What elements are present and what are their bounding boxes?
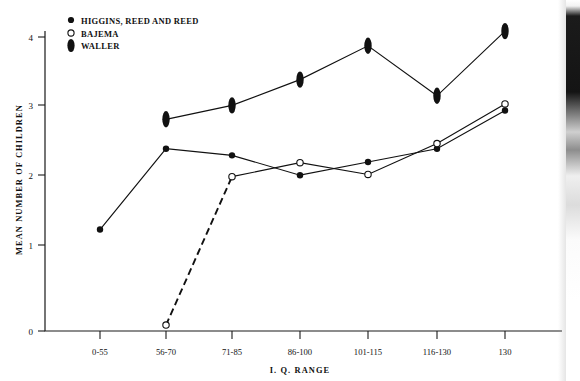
x-axis-ticks [100, 331, 505, 339]
data-point-higgins-reed-and-reed-130 [502, 107, 508, 113]
series-segment-solid [166, 31, 505, 119]
y-tick-label-0: 0 [29, 327, 34, 337]
data-point-bajema-101-115 [365, 171, 371, 177]
chart-axes: 4 3 2 1 0 MEAN NUMBER OF CHILDREN 0-55 5… [15, 31, 562, 375]
data-point-higgins-reed-and-reed-71-85 [229, 152, 235, 158]
y-axis-title: MEAN NUMBER OF CHILDREN [15, 104, 24, 255]
series-waller [162, 23, 508, 128]
data-point-higgins-reed-and-reed-101-115 [365, 159, 371, 165]
y-tick-label-4: 4 [29, 33, 34, 43]
data-point-waller-130 [501, 23, 508, 39]
y-axis-ticks [38, 37, 45, 331]
data-point-bajema-130 [502, 101, 508, 107]
series-segment-solid [232, 104, 505, 177]
legend-item-higgins-reed-and-reed: HIGGINS, REED AND REED [68, 16, 199, 26]
data-point-waller-71-85 [228, 97, 235, 113]
y-tick-label-1: 1 [29, 241, 34, 251]
x-tick-label-0-55: 0-55 [92, 347, 108, 357]
data-point-waller-101-115 [364, 38, 371, 54]
data-point-higgins-reed-and-reed-86-100 [297, 172, 303, 178]
data-point-bajema-71-85 [229, 173, 235, 179]
chart-figure: HIGGINS, REED AND REED BAJEMA WALLER [0, 0, 580, 381]
data-point-higgins-reed-and-reed-0-55 [97, 226, 103, 232]
x-tick-label-130: 130 [499, 347, 512, 357]
chart-series-layer [97, 23, 509, 328]
series-bajema [163, 101, 508, 329]
legend-marker-filled-ellipse-icon [67, 39, 74, 52]
x-tick-label-101-115: 101-115 [354, 347, 382, 357]
legend-item-waller: WALLER [67, 39, 120, 52]
series-segment-dashed [166, 177, 232, 325]
data-point-bajema-116-130 [434, 140, 440, 146]
data-point-waller-86-100 [296, 71, 303, 87]
x-tick-label-56-70: 56-70 [156, 347, 176, 357]
legend-marker-filled-circle-icon [68, 17, 74, 23]
series-higgins-reed-and-reed [97, 107, 508, 232]
x-tick-label-116-130: 116-130 [423, 347, 451, 357]
x-tick-label-71-85: 71-85 [222, 347, 242, 357]
axis-lines [45, 31, 562, 331]
x-axis-title: I. Q. RANGE [270, 366, 331, 375]
legend-label-higgins: HIGGINS, REED AND REED [81, 16, 199, 26]
legend-marker-open-circle-icon [68, 30, 74, 36]
legend-label-waller: WALLER [81, 41, 120, 51]
y-tick-label-2: 2 [29, 171, 34, 181]
x-axis-tick-labels: 0-55 56-70 71-85 86-100 101-115 116-130 … [92, 347, 511, 357]
legend-item-bajema: BAJEMA [68, 29, 119, 39]
series-segment-solid [100, 111, 505, 230]
data-point-bajema-56-70 [163, 322, 169, 328]
data-point-bajema-86-100 [297, 159, 303, 165]
y-tick-label-3: 3 [29, 101, 34, 111]
data-point-higgins-reed-and-reed-56-70 [163, 146, 169, 152]
data-point-waller-56-70 [162, 111, 169, 127]
chart-legend: HIGGINS, REED AND REED BAJEMA WALLER [67, 16, 198, 53]
line-chart: HIGGINS, REED AND REED BAJEMA WALLER [0, 0, 580, 381]
data-point-waller-116-130 [433, 88, 440, 104]
legend-label-bajema: BAJEMA [81, 29, 119, 39]
y-axis-tick-labels: 4 3 2 1 0 [29, 33, 34, 337]
x-tick-label-86-100: 86-100 [288, 347, 312, 357]
